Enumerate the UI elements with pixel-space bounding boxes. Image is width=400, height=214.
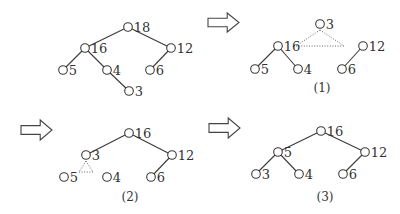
dotted-comparison-line bbox=[86, 161, 93, 172]
tree-node: 4 bbox=[295, 167, 313, 182]
node-label: 4 bbox=[305, 167, 313, 182]
node-label: 5 bbox=[284, 145, 292, 160]
tree-node: 3 bbox=[252, 167, 270, 182]
diagram-canvas: 181612546331612546(1)16312546(2)16512346… bbox=[0, 0, 400, 214]
right-arrow-icon bbox=[208, 13, 239, 32]
tree-node: 5 bbox=[59, 63, 77, 78]
node-circle-icon bbox=[124, 23, 133, 32]
node-label: 12 bbox=[178, 148, 195, 163]
tree-node: 18 bbox=[124, 20, 151, 35]
tree-node: 4 bbox=[294, 62, 312, 77]
node-label: 12 bbox=[177, 41, 194, 56]
tree-node: 6 bbox=[338, 62, 356, 77]
right-arrow-icon bbox=[209, 118, 240, 138]
node-label: 3 bbox=[92, 148, 100, 163]
node-label: 6 bbox=[348, 62, 356, 77]
node-circle-icon bbox=[125, 129, 134, 138]
node-circle-icon bbox=[167, 44, 176, 53]
tree-panel-0: 1816125463 bbox=[59, 20, 194, 99]
tree-panel-2: 16312546(2) bbox=[60, 126, 195, 205]
tree-node: 6 bbox=[339, 167, 357, 182]
node-label: 16 bbox=[327, 124, 344, 139]
node-circle-icon bbox=[147, 173, 156, 182]
node-circle-icon bbox=[252, 170, 261, 179]
tree-node: 3 bbox=[82, 148, 100, 163]
right-arrow-icon bbox=[21, 120, 52, 140]
node-circle-icon bbox=[317, 127, 326, 136]
node-label: 6 bbox=[156, 63, 164, 78]
tree-node: 12 bbox=[167, 41, 194, 56]
tree-node: 6 bbox=[147, 170, 165, 185]
tree-node: 12 bbox=[361, 145, 388, 160]
tree-node: 5 bbox=[251, 62, 269, 77]
dotted-comparison-line bbox=[320, 30, 344, 46]
panel-caption: (3) bbox=[317, 190, 334, 204]
tree-node: 4 bbox=[103, 170, 121, 185]
node-circle-icon bbox=[361, 148, 370, 157]
node-circle-icon bbox=[316, 20, 325, 29]
node-label: 6 bbox=[349, 167, 357, 182]
node-label: 3 bbox=[135, 84, 143, 99]
tree-node: 16 bbox=[317, 124, 344, 139]
node-circle-icon bbox=[60, 173, 69, 182]
node-label: 5 bbox=[70, 170, 78, 185]
tree-node: 3 bbox=[125, 84, 143, 99]
tree-node: 3 bbox=[316, 17, 334, 32]
panel-caption: (2) bbox=[122, 190, 139, 204]
node-label: 18 bbox=[134, 20, 151, 35]
node-label: 12 bbox=[371, 145, 388, 160]
node-circle-icon bbox=[338, 65, 347, 74]
tree-node: 16 bbox=[125, 126, 152, 141]
node-circle-icon bbox=[251, 65, 260, 74]
tree-node: 5 bbox=[274, 145, 292, 160]
tree-panel-3: 16512346(3) bbox=[252, 124, 388, 205]
panel-caption: (1) bbox=[314, 81, 331, 95]
node-label: 3 bbox=[262, 167, 270, 182]
node-circle-icon bbox=[339, 170, 348, 179]
node-label: 5 bbox=[69, 63, 77, 78]
node-label: 4 bbox=[304, 62, 312, 77]
node-circle-icon bbox=[146, 66, 155, 75]
dotted-comparison-line bbox=[79, 161, 86, 172]
node-circle-icon bbox=[359, 42, 368, 51]
node-label: 16 bbox=[284, 39, 301, 54]
node-label: 3 bbox=[326, 17, 334, 32]
node-circle-icon bbox=[274, 148, 283, 157]
node-label: 16 bbox=[91, 41, 108, 56]
heap-sift-down-diagram: 181612546331612546(1)16312546(2)16512346… bbox=[0, 0, 400, 214]
node-label: 4 bbox=[113, 63, 121, 78]
node-circle-icon bbox=[295, 170, 304, 179]
node-label: 6 bbox=[157, 170, 165, 185]
node-circle-icon bbox=[294, 65, 303, 74]
node-label: 5 bbox=[261, 62, 269, 77]
tree-node: 4 bbox=[103, 63, 121, 78]
node-circle-icon bbox=[103, 173, 112, 182]
tree-node: 12 bbox=[359, 39, 386, 54]
tree-node: 16 bbox=[81, 41, 108, 56]
node-label: 12 bbox=[369, 39, 386, 54]
node-circle-icon bbox=[168, 151, 177, 160]
node-circle-icon bbox=[274, 42, 283, 51]
tree-node: 12 bbox=[168, 148, 195, 163]
tree-node: 16 bbox=[274, 39, 301, 54]
node-circle-icon bbox=[59, 66, 68, 75]
node-circle-icon bbox=[81, 44, 90, 53]
node-circle-icon bbox=[82, 151, 91, 160]
tree-node: 5 bbox=[60, 170, 78, 185]
node-label: 4 bbox=[113, 170, 121, 185]
node-label: 16 bbox=[135, 126, 152, 141]
node-circle-icon bbox=[103, 66, 112, 75]
node-circle-icon bbox=[125, 87, 134, 96]
tree-panel-1: 31612546(1) bbox=[251, 17, 386, 96]
tree-node: 6 bbox=[146, 63, 164, 78]
